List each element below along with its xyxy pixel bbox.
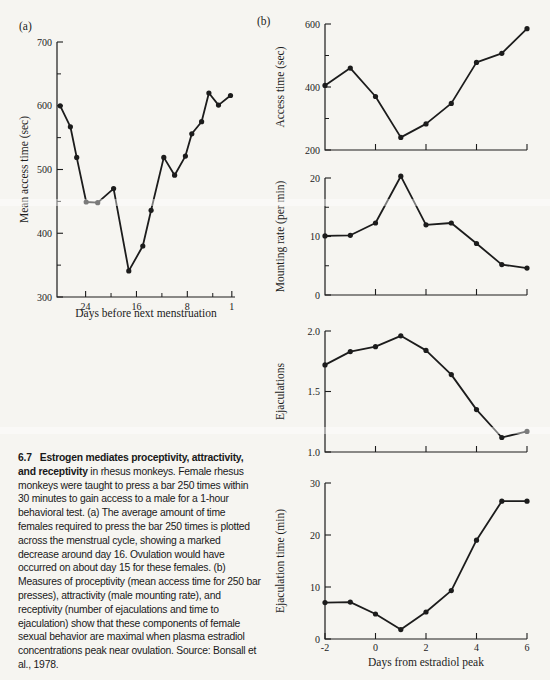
svg-text:Ejaculations: Ejaculations — [274, 363, 287, 420]
caption-body-text: in rhesus monkeys. Female rhesus monkeys… — [18, 466, 261, 670]
figure-6-7-page: (a) (b) 300400500600700241681Mean access… — [0, 0, 550, 680]
svg-text:2: 2 — [424, 642, 429, 653]
svg-text:10: 10 — [310, 582, 320, 593]
svg-text:-2: -2 — [321, 642, 329, 653]
svg-text:0: 0 — [373, 642, 378, 653]
svg-text:Mean access time (sec): Mean access time (sec) — [18, 116, 31, 223]
svg-text:Access time (sec): Access time (sec) — [274, 46, 287, 127]
svg-text:1: 1 — [229, 301, 234, 312]
svg-text:Ejaculation time (min): Ejaculation time (min) — [274, 509, 287, 613]
chart-mean-access-time: 300400500600700241681Mean access time (s… — [8, 30, 260, 330]
svg-text:0: 0 — [315, 290, 320, 301]
svg-text:10: 10 — [310, 231, 320, 242]
svg-text:600: 600 — [305, 19, 320, 30]
chart-mounting-rate: 01020Mounting rate (per min) — [262, 168, 550, 306]
svg-text:30: 30 — [310, 478, 320, 489]
svg-text:300: 300 — [37, 292, 52, 303]
svg-text:200: 200 — [305, 145, 320, 156]
figure-caption: 6.7Estrogen mediates proceptivity, attra… — [18, 451, 261, 672]
svg-text:2.0: 2.0 — [308, 326, 321, 337]
chart-ejaculation-time: 0102030-20246Ejaculation time (min)Days … — [262, 474, 550, 678]
svg-text:1.0: 1.0 — [308, 447, 321, 458]
svg-text:6: 6 — [525, 642, 530, 653]
svg-text:Days before next menstruation: Days before next menstruation — [75, 307, 217, 320]
svg-text:1.5: 1.5 — [308, 386, 321, 397]
svg-text:500: 500 — [37, 164, 52, 175]
svg-text:20: 20 — [310, 530, 320, 541]
chart-ejaculations: 1.01.52.0Ejaculations — [262, 322, 550, 462]
chart-access-time: 200400600Access time (sec) — [262, 12, 550, 164]
svg-text:0: 0 — [315, 634, 320, 645]
caption-number: 6.7 — [18, 452, 32, 463]
svg-text:400: 400 — [305, 82, 320, 93]
svg-text:4: 4 — [474, 642, 479, 653]
svg-text:400: 400 — [37, 228, 52, 239]
svg-text:20: 20 — [310, 173, 320, 184]
svg-text:Mounting rate (per min): Mounting rate (per min) — [274, 181, 287, 293]
svg-text:700: 700 — [37, 37, 52, 48]
svg-text:Days from estradiol peak: Days from estradiol peak — [368, 656, 484, 669]
svg-text:600: 600 — [37, 100, 52, 111]
